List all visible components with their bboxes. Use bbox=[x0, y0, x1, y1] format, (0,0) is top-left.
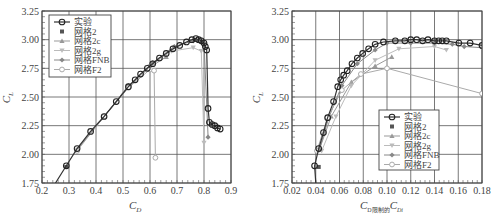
y-tick-label: 3.25 bbox=[272, 6, 290, 17]
x-tick-label: 0.3 bbox=[63, 185, 76, 196]
series-marker bbox=[373, 63, 378, 68]
series-marker bbox=[358, 72, 363, 77]
figure: 0.20.30.40.50.60.70.80.91.752.002.252.50… bbox=[0, 0, 496, 218]
series-marker bbox=[333, 114, 338, 119]
series-marker bbox=[205, 135, 210, 140]
x-tick-label: 0.7 bbox=[171, 185, 184, 196]
chart-canvas: 0.20.30.40.50.60.70.80.91.752.002.252.50… bbox=[0, 0, 496, 218]
legend-label: 网格2 bbox=[74, 26, 97, 37]
y-tick-label: 3.00 bbox=[22, 34, 40, 45]
legend-marker bbox=[60, 67, 65, 72]
legend-label: 网格F2 bbox=[74, 64, 102, 75]
legend-label: 网格F2 bbox=[404, 159, 432, 170]
y-tick-label: 2.25 bbox=[22, 120, 40, 131]
x-tick-label: 0.06 bbox=[331, 185, 349, 196]
left-x-label-sub: D bbox=[136, 206, 141, 214]
legend-label: 网格2 bbox=[404, 121, 427, 132]
y-tick-label: 2.50 bbox=[272, 92, 290, 103]
legend: 实验网格2网格2c网格2g网格FNB网格F2 bbox=[379, 110, 440, 170]
y-tick-label: 2.50 bbox=[22, 92, 40, 103]
left-x-axis-label: CD bbox=[129, 199, 141, 214]
x-tick-label: 0.8 bbox=[198, 185, 211, 196]
series-网格F2 bbox=[75, 67, 158, 160]
y-tick-label: 2.25 bbox=[272, 120, 290, 131]
legend-label: 网格2c bbox=[74, 35, 101, 46]
x-tick-label: 0.4 bbox=[90, 185, 103, 196]
series-marker bbox=[199, 49, 204, 54]
x-tick-label: 0.5 bbox=[117, 185, 130, 196]
legend: 实验网格2网格2c网格2g网格FNB网格F2 bbox=[49, 15, 111, 77]
x-tick-label: 0.08 bbox=[355, 185, 373, 196]
y-tick-label: 2.75 bbox=[22, 63, 40, 74]
legend-label: 网格FNB bbox=[404, 149, 440, 160]
y-tick-label: 2.00 bbox=[272, 149, 290, 160]
series-marker bbox=[389, 54, 394, 59]
right-chart-panel: 0.020.040.060.080.100.120.140.160.181.75… bbox=[272, 6, 491, 197]
legend-label: 实验 bbox=[74, 16, 92, 27]
x-tick-label: 0.14 bbox=[426, 185, 444, 196]
x-tick-label: 0.16 bbox=[450, 185, 468, 196]
y-tick-label: 3.25 bbox=[22, 6, 40, 17]
y-tick-label: 3.00 bbox=[272, 34, 290, 45]
x-tick-label: 0.10 bbox=[378, 185, 396, 196]
right-y-label-sub: L bbox=[257, 92, 265, 96]
legend-label: 网格2g bbox=[74, 45, 102, 56]
legend-marker bbox=[60, 30, 64, 34]
x-tick-label: 0.04 bbox=[307, 185, 325, 196]
left-y-label-sub: L bbox=[7, 92, 15, 96]
x-tick-label: 0.12 bbox=[402, 185, 420, 196]
legend-label: 网格2g bbox=[404, 140, 432, 151]
left-y-axis-label: CL bbox=[0, 92, 15, 103]
right-x-axis-label: CD限制的CDi bbox=[360, 199, 403, 214]
legend-label: 网格FNB bbox=[74, 54, 110, 65]
legend-marker bbox=[390, 125, 394, 129]
series-marker bbox=[153, 155, 158, 160]
series-marker bbox=[152, 68, 157, 73]
right-x-label-main2: C bbox=[390, 199, 397, 211]
left-y-label-main: C bbox=[0, 96, 12, 103]
x-tick-label: 0.18 bbox=[473, 185, 491, 196]
right-x-label-sub2: Di bbox=[397, 207, 403, 213]
y-tick-label: 2.75 bbox=[272, 63, 290, 74]
series-marker bbox=[444, 48, 449, 53]
series-marker bbox=[385, 66, 390, 71]
series-marker bbox=[480, 91, 485, 96]
x-tick-label: 0.6 bbox=[144, 185, 157, 196]
right-y-axis-label: CL bbox=[250, 92, 265, 103]
y-tick-label: 1.75 bbox=[272, 178, 290, 189]
left-chart-panel: 0.20.30.40.50.60.70.80.91.752.002.252.50… bbox=[22, 6, 238, 197]
series-marker bbox=[462, 44, 467, 49]
x-tick-label: 0.9 bbox=[225, 185, 238, 196]
right-x-label-sub: D限制的 bbox=[367, 207, 389, 213]
series-marker bbox=[201, 141, 206, 146]
legend-marker bbox=[390, 162, 395, 167]
y-tick-label: 1.75 bbox=[22, 178, 40, 189]
right-y-label-main: C bbox=[250, 96, 262, 103]
y-tick-label: 2.00 bbox=[22, 149, 40, 160]
legend-label: 实验 bbox=[404, 111, 422, 122]
legend-label: 网格2c bbox=[404, 130, 431, 141]
